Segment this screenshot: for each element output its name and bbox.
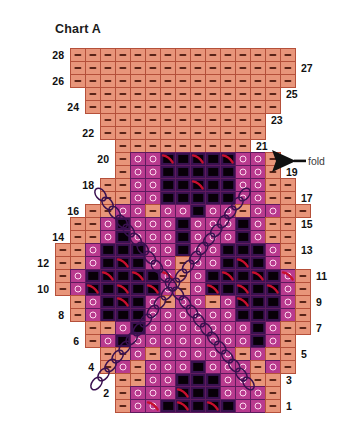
row-number-5: 5 [301,348,307,359]
row-number-13: 13 [301,244,313,255]
row-number-27: 27 [301,62,313,73]
row-number-26: 26 [52,75,64,86]
row-number-6: 6 [73,335,79,346]
row-number-23: 23 [271,114,283,125]
row-number-24: 24 [67,101,79,112]
row-number-20: 20 [97,153,109,164]
row-number-10: 10 [37,283,49,294]
row-number-22: 22 [82,127,94,138]
row-number-21: 21 [256,140,268,151]
row-number-9: 9 [316,296,322,307]
row-number-14: 14 [52,231,64,242]
row-number-25: 25 [286,88,298,99]
row-number-3: 3 [286,374,292,385]
row-number-28: 28 [52,49,64,60]
row-number-19: 19 [286,166,298,177]
chart-a-panel: Chart A fold 282624222018161412108642272… [0,0,342,439]
row-number-11: 11 [316,270,327,281]
row-number-8: 8 [58,309,64,320]
row-number-17: 17 [301,192,313,203]
fold-label: fold [308,155,325,167]
row-number-18: 18 [82,179,94,190]
row-number-4: 4 [88,361,94,372]
row-number-1: 1 [286,400,292,411]
row-number-12: 12 [37,257,49,268]
row-number-15: 15 [301,218,313,229]
row-number-2: 2 [103,387,109,398]
row-number-7: 7 [316,322,322,333]
row-number-16: 16 [67,205,79,216]
